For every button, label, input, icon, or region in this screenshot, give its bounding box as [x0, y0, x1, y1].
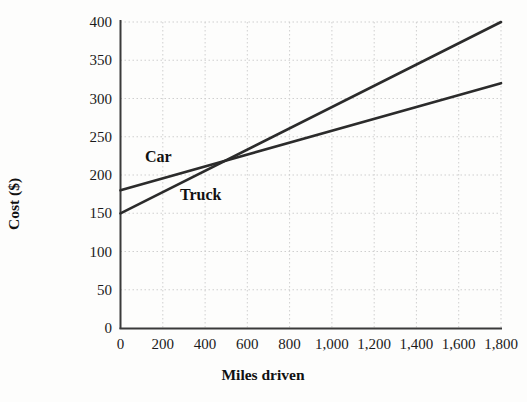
y-axis-title: Cost ($): [5, 178, 23, 230]
x-tick-label: 1,600: [442, 336, 476, 353]
x-tick-label: 1,200: [357, 336, 391, 353]
y-tick-label: 150: [80, 205, 112, 222]
y-tick-label: 100: [80, 243, 112, 260]
y-tick-label: 0: [80, 320, 112, 337]
x-tick-label: 1,400: [400, 336, 434, 353]
y-tick-label: 50: [80, 281, 112, 298]
y-tick-label: 200: [80, 167, 112, 184]
x-tick-label: 0: [117, 336, 125, 353]
y-tick-label: 250: [80, 128, 112, 145]
x-tick-label: 800: [278, 336, 301, 353]
series-label-truck: Truck: [180, 186, 221, 204]
x-tick-label: 200: [152, 336, 175, 353]
y-tick-label: 300: [80, 90, 112, 107]
x-tick-label: 600: [236, 336, 259, 353]
series-line-truck: [121, 22, 502, 213]
y-tick-label: 350: [80, 52, 112, 69]
y-tick-label: 400: [80, 14, 112, 31]
x-axis-title: Miles driven: [221, 366, 304, 384]
x-tick-label: 1,800: [484, 336, 518, 353]
horizontal-gridlines: [121, 22, 502, 290]
x-tick-label: 400: [194, 336, 217, 353]
series-label-car: Car: [145, 148, 172, 166]
line-chart: 400 350 300 250 200 150 100 50 0 0 200 4…: [0, 0, 527, 402]
x-tick-label: 1,000: [315, 336, 349, 353]
